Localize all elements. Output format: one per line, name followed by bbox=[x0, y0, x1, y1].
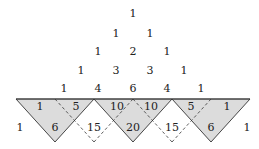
pascal-cell-r5-c3: 10 bbox=[144, 100, 158, 113]
pascal-cell-r5-c2: 10 bbox=[110, 100, 124, 113]
pascal-cell-r1-c1: 1 bbox=[147, 27, 154, 40]
pascal-cell-r3-c2: 3 bbox=[147, 64, 154, 77]
pascal-cell-r2-c0: 1 bbox=[95, 45, 102, 58]
pascal-cell-r6-c2: 15 bbox=[87, 121, 101, 134]
pascal-cell-r2-c2: 1 bbox=[164, 45, 171, 58]
pascal-cell-r3-c3: 1 bbox=[181, 64, 188, 77]
pascal-cell-r4-c1: 4 bbox=[95, 82, 102, 95]
pascal-cell-r3-c0: 1 bbox=[78, 64, 85, 77]
pascal-triangle-diagram: 111121133114641151010511615201561 bbox=[0, 0, 259, 149]
pascal-cell-r5-c0: 1 bbox=[37, 100, 44, 113]
pascal-cell-r3-c1: 3 bbox=[113, 64, 120, 77]
pascal-cell-r4-c2: 6 bbox=[130, 82, 137, 95]
pascal-cell-r2-c1: 2 bbox=[130, 45, 137, 58]
pascal-cell-r6-c5: 6 bbox=[208, 121, 215, 134]
pascal-cell-r6-c1: 6 bbox=[52, 121, 59, 134]
pascal-cell-r5-c4: 5 bbox=[188, 100, 195, 113]
pascal-cell-r6-c6: 1 bbox=[244, 121, 251, 134]
pascal-cell-r4-c0: 1 bbox=[61, 82, 68, 95]
pascal-cell-r6-c0: 1 bbox=[17, 121, 24, 134]
pascal-cell-r5-c1: 5 bbox=[73, 100, 80, 113]
pascal-cell-r5-c5: 1 bbox=[224, 100, 231, 113]
pascal-cell-r4-c3: 4 bbox=[164, 82, 171, 95]
pascal-cell-r6-c4: 15 bbox=[165, 121, 179, 134]
pascal-cell-r6-c3: 20 bbox=[126, 121, 140, 134]
pascal-cell-r4-c4: 1 bbox=[198, 82, 205, 95]
pascal-cell-r1-c0: 1 bbox=[113, 27, 120, 40]
pascal-cell-r0-c0: 1 bbox=[130, 7, 137, 20]
